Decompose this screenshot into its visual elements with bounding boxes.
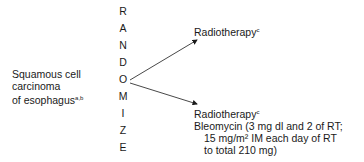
arm1-label: Radiotherapyc <box>194 24 259 38</box>
arm2-label: Radiotherapyc Bleomycin (3 mg dl and 2 o… <box>194 106 343 156</box>
arrow-to-arm2 <box>130 83 197 104</box>
arrow-to-arm1 <box>130 40 197 80</box>
